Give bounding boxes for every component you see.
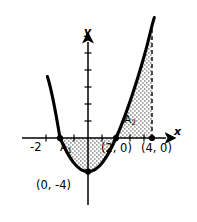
x-tick-label-minus-2: -2 (30, 142, 41, 154)
y-axis-label: y (84, 26, 91, 37)
point-label-0-minus-4: (0, -4) (36, 180, 71, 192)
point-label-2-0: (2, 0) (101, 143, 132, 155)
x-axis-label: x (174, 126, 181, 137)
marker-vertex (85, 169, 91, 175)
parabola-area-figure: y x -2 (2, 0) (4, 0) (0, -4) A1 A2 (0, 0, 197, 222)
point-label-4-0: (4, 0) (141, 143, 172, 155)
area-label-a1-subscript: 1 (67, 146, 72, 155)
plot-canvas (0, 0, 197, 222)
area-label-a1: A1 (60, 142, 72, 153)
area-label-a2-subscript: 2 (131, 118, 136, 127)
area-label-a2: A2 (124, 114, 136, 125)
